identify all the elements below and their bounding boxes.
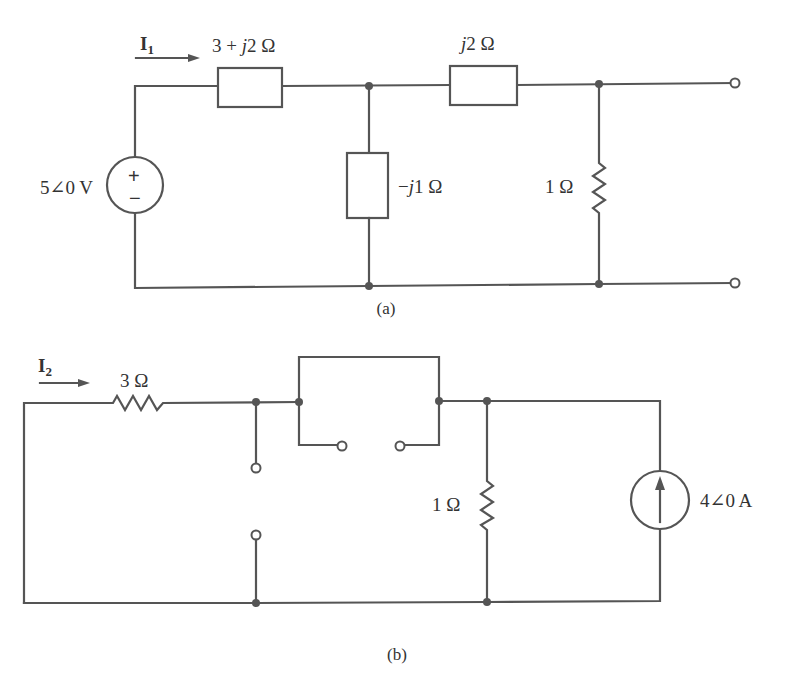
minus-sign: −	[129, 187, 141, 209]
node-dot	[435, 397, 443, 405]
resistor-3-ohm-label: 3 Ω	[120, 370, 148, 391]
impedance-3-j2	[218, 68, 282, 107]
current-label-i1: I1	[140, 33, 154, 57]
node-dot	[252, 599, 260, 607]
impedance-3-j2-label: 3 + j2 Ω	[212, 35, 275, 56]
resistor-1-ohm-b	[481, 401, 493, 602]
node-dot	[365, 282, 373, 290]
arrowhead-icon	[188, 54, 200, 62]
impedance-j2	[450, 66, 517, 105]
resistor-1-ohm-a-label: 1 Ω	[545, 176, 573, 197]
node-dot	[483, 598, 491, 606]
current-arrow-i2: I2	[38, 355, 90, 387]
caption-a: (a)	[377, 299, 396, 318]
terminal-top	[731, 79, 740, 88]
node-dot	[295, 398, 303, 406]
figure-b: I2 3 Ω 1 Ω 4∠0 A	[24, 355, 753, 664]
node-dot	[595, 80, 603, 88]
switch-arm-left	[299, 402, 338, 445]
current-source-label: 4∠0 A	[700, 490, 753, 511]
impedance-j2-label: j2 Ω	[458, 33, 495, 54]
node-dot	[483, 397, 491, 405]
impedance-minus-j1-label: −j1 Ω	[398, 176, 442, 197]
current-source	[631, 471, 689, 529]
voltage-source-label: 5∠0 V	[40, 177, 93, 198]
caption-b: (b)	[387, 645, 407, 664]
circuit-diagrams: I1 3 + j2 Ω j2 Ω + − 5∠0 V −j1 Ω 1 Ω	[0, 0, 791, 686]
resistor-3-ohm	[24, 396, 299, 603]
node-dot	[252, 398, 260, 406]
switch-arm-right	[404, 401, 439, 445]
current-label-i2: I2	[38, 355, 52, 379]
wire-a-left-top	[135, 86, 218, 157]
wire-b-right-top	[439, 401, 660, 471]
arrowhead-icon	[78, 379, 90, 387]
resistor-1-ohm-b-label: 1 Ω	[432, 494, 460, 515]
current-arrow-i1: I1	[136, 33, 200, 62]
node-dot	[365, 82, 373, 90]
plus-sign: +	[128, 165, 140, 187]
figure-a: I1 3 + j2 Ω j2 Ω + − 5∠0 V −j1 Ω 1 Ω	[40, 33, 740, 318]
switch-terminal	[252, 464, 261, 473]
switch-terminal	[396, 442, 405, 451]
voltage-source: + −	[107, 157, 163, 213]
switch-terminal	[252, 531, 261, 540]
terminal-bottom	[731, 279, 740, 288]
wire-b-bypass	[299, 357, 439, 402]
resistor-1-ohm-a	[593, 84, 605, 284]
node-dot	[595, 280, 603, 288]
wire-a-bottom	[135, 213, 733, 288]
wire-a-right-top	[517, 83, 735, 85]
switch-terminal	[338, 442, 347, 451]
wire-b-bottom	[24, 529, 660, 603]
impedance-minus-j1	[347, 153, 388, 218]
